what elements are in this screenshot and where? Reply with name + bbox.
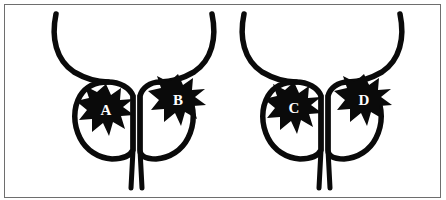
right-panel-left-duct: [242, 14, 296, 82]
left-diagram-group: A B: [54, 14, 214, 188]
lesion-c-label: C: [289, 100, 300, 116]
left-panel-left-duct: [54, 14, 108, 82]
right-panel-right-duct: [348, 14, 402, 82]
right-diagram-group: C D: [242, 14, 402, 188]
right-panel-urethra-left-wall: [319, 96, 321, 188]
left-panel-urethra-left-wall: [131, 96, 133, 188]
left-panel-urethra-right-wall: [140, 96, 142, 188]
anatomical-diagram-canvas: A B C: [0, 0, 446, 200]
lesion-d-label: D: [359, 92, 370, 108]
lesion-b-label: B: [173, 92, 183, 108]
right-panel-urethra-right-wall: [328, 96, 330, 188]
left-panel-right-duct: [160, 14, 214, 82]
lesion-a-label: A: [101, 102, 112, 118]
figure-root: A B C: [0, 0, 446, 200]
